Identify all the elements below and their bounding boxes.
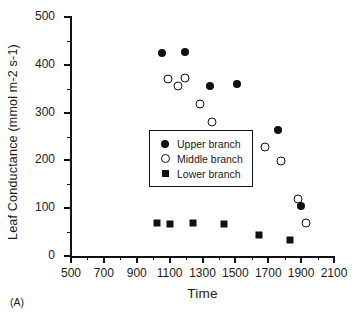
x-tick-minor [219,256,220,260]
x-tick-label: 700 [94,266,114,280]
x-tick-major [136,256,138,263]
data-point [189,220,196,227]
chart-legend: Upper branchMiddle branchLower branch [149,130,253,187]
x-tick-minor [252,256,253,260]
legend-item: Upper branch [157,136,243,151]
x-tick-major [300,256,302,263]
x-tick-minor [318,256,319,260]
legend-marker-icon [157,170,173,177]
data-point [181,74,190,83]
data-point [220,220,227,227]
data-point [158,49,166,57]
x-tick-minor [153,256,154,260]
y-tick-minor [67,41,71,42]
data-point [154,219,161,226]
data-point [293,195,302,204]
legend-item: Middle branch [157,151,243,166]
y-tick-major: 100 [64,207,71,209]
legend-item: Lower branch [157,166,243,181]
y-tick-major: 500 [64,16,71,18]
x-tick-minor [120,256,121,260]
y-tick-major: 200 [64,159,71,161]
x-tick-major [103,256,105,263]
y-tick-label: 200 [35,152,55,166]
x-tick-minor [186,256,187,260]
x-tick-major [267,256,269,263]
data-point [286,237,293,244]
data-point [181,48,189,56]
legend-item-label: Middle branch [173,153,243,165]
data-point [260,143,269,152]
y-tick-minor [67,232,71,233]
data-point [173,82,182,91]
legend-item-label: Upper branch [173,138,241,150]
x-tick-label: 500 [61,266,81,280]
x-tick-major [169,256,171,263]
panel-label: (A) [10,296,24,308]
data-point [163,75,172,84]
data-point [206,82,214,90]
x-tick-label: 1100 [157,266,183,280]
legend-item-label: Lower branch [173,168,241,180]
data-point [196,99,205,108]
x-tick-major [70,256,72,263]
x-tick-label: 2100 [321,266,348,280]
y-tick-label: 400 [35,57,55,71]
data-point [277,156,286,165]
x-axis-title: Time [71,286,334,301]
data-point [302,219,311,228]
y-tick-label: 100 [35,200,55,214]
data-point [256,232,263,239]
legend-marker-icon [157,154,173,163]
y-tick-label: 300 [35,105,55,119]
x-tick-label: 1900 [288,266,315,280]
figure-panel-a: Leaf Conductance (mmol m-2 s-1) 01002003… [0,0,354,320]
y-tick-label: 500 [35,9,55,23]
x-tick-minor [87,256,88,260]
x-tick-major [202,256,204,263]
data-point [274,126,282,134]
x-tick-major [234,256,236,263]
x-tick-label: 1500 [222,266,249,280]
x-tick-label: 1300 [189,266,216,280]
data-point [166,220,173,227]
y-tick-minor [67,184,71,185]
y-tick-minor [67,137,71,138]
x-tick-label: 1700 [255,266,282,280]
y-tick-major: 400 [64,64,71,66]
data-point [233,80,241,88]
data-point [207,118,216,127]
plot-area: 0100200300400500 50070090011001300150017… [71,17,334,256]
y-tick-minor [67,89,71,90]
x-tick-label: 900 [127,266,147,280]
x-tick-minor [285,256,286,260]
y-tick-label: 0 [48,248,55,262]
y-axis-title: Leaf Conductance (mmol m-2 s-1) [2,12,24,272]
legend-marker-icon [157,140,173,148]
x-tick-major [333,256,335,263]
y-tick-major: 300 [64,112,71,114]
